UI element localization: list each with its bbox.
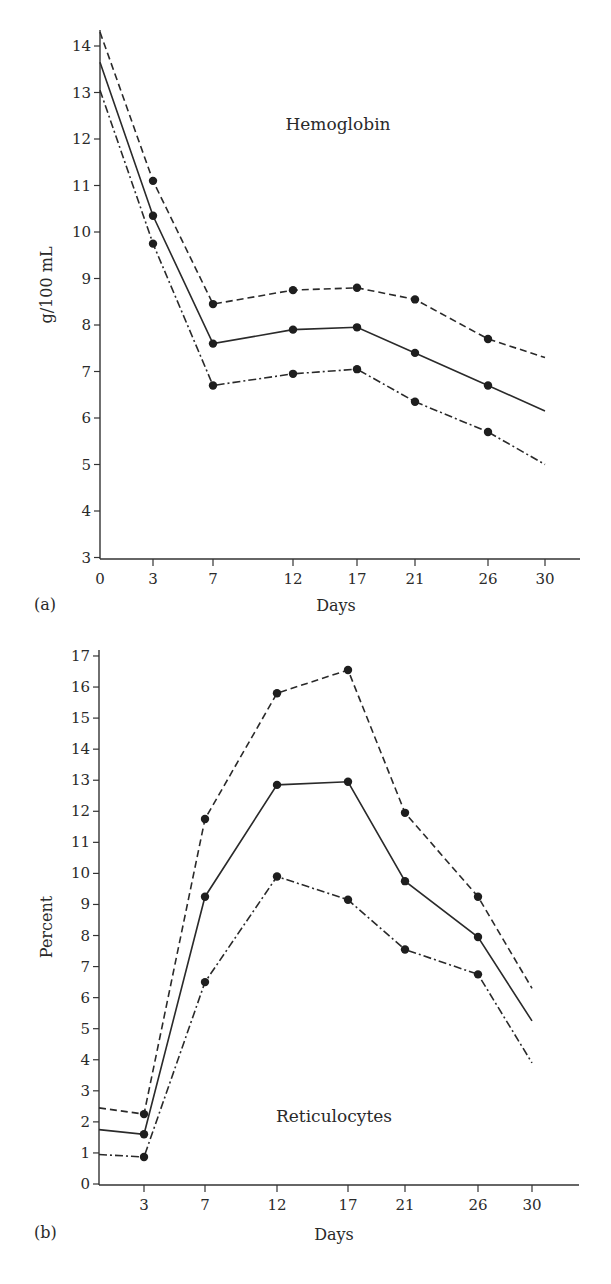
y-tick-label: 13 [71,771,90,789]
panel-label: (a) [34,595,56,614]
x-tick-label: 21 [405,570,424,588]
x-tick-label: 12 [283,570,302,588]
x-tick-label: 17 [338,1196,357,1214]
data-point-marker [411,349,419,357]
series-dashed-line [99,670,532,1114]
data-point-marker [149,239,157,247]
data-point-marker [353,323,361,331]
y-tick-label: 10 [72,223,91,241]
series-dashed-line [100,32,545,358]
data-point-marker [140,1130,148,1138]
x-tick-label: 26 [478,570,497,588]
chart-annotation: Hemoglobin [285,114,390,134]
data-point-marker [289,325,297,333]
x-tick-label: 30 [535,570,554,588]
y-tick-label: 12 [72,130,91,148]
data-point-marker [273,689,281,697]
y-tick-label: 3 [80,1082,90,1100]
y-tick-label: 10 [71,864,90,882]
y-tick-label: 9 [80,895,90,913]
y-tick-label: 17 [71,647,90,665]
x-tick-label: 21 [395,1196,414,1214]
reticulocytes-chart: 01234567891011121314151617371217212630Da… [34,647,579,1244]
x-tick-label: 7 [208,570,218,588]
x-tick-label: 7 [200,1196,210,1214]
data-point-marker [273,872,281,880]
data-point-marker [201,978,209,986]
y-tick-label: 11 [71,833,90,851]
panel-label: (b) [34,1223,57,1242]
data-point-marker [140,1110,148,1118]
data-point-marker [201,892,209,900]
x-tick-label: 0 [95,570,105,588]
x-axis-title: Days [314,1225,354,1244]
series-dashdot-line [100,90,545,464]
data-point-marker [474,933,482,941]
y-tick-label: 14 [71,740,90,758]
data-point-marker [344,666,352,674]
data-point-marker [344,778,352,786]
x-tick-label: 3 [139,1196,149,1214]
y-axis-title: Percent [37,895,56,958]
data-point-marker [209,300,217,308]
y-tick-label: 8 [81,316,91,334]
data-point-marker [474,970,482,978]
data-point-marker [353,365,361,373]
y-tick-label: 2 [80,1113,90,1131]
y-tick-label: 9 [81,270,91,288]
data-point-marker [209,381,217,389]
hemoglobin-chart: 345678910111213140371217212630Daysg/100 … [34,30,580,615]
y-tick-label: 16 [71,678,90,696]
data-point-marker [353,284,361,292]
y-tick-label: 5 [81,456,91,474]
data-point-marker [484,381,492,389]
y-tick-label: 4 [81,502,91,520]
y-tick-label: 8 [80,927,90,945]
data-point-marker [289,286,297,294]
data-point-marker [411,295,419,303]
data-point-marker [401,945,409,953]
data-point-marker [401,809,409,817]
x-tick-label: 12 [267,1196,286,1214]
data-point-marker [149,212,157,220]
data-point-marker [344,896,352,904]
x-tick-label: 30 [522,1196,541,1214]
x-tick-label: 26 [468,1196,487,1214]
y-tick-label: 6 [81,409,91,427]
y-tick-label: 6 [80,989,90,1007]
data-point-marker [474,892,482,900]
chart-annotation: Reticulocytes [276,1106,392,1126]
y-tick-label: 13 [72,84,91,102]
y-tick-label: 11 [72,177,91,195]
data-point-marker [289,370,297,378]
data-point-marker [484,335,492,343]
y-tick-label: 12 [71,802,90,820]
y-tick-label: 15 [71,709,90,727]
data-point-marker [484,428,492,436]
y-tick-label: 4 [80,1051,90,1069]
y-tick-label: 1 [80,1144,90,1162]
y-tick-label: 3 [81,549,91,567]
x-tick-label: 17 [347,570,366,588]
x-tick-label: 3 [148,570,158,588]
data-point-marker [201,815,209,823]
data-point-marker [209,339,217,347]
y-tick-label: 7 [81,363,91,381]
data-point-marker [273,781,281,789]
y-tick-label: 7 [80,958,90,976]
data-point-marker [140,1153,148,1161]
y-tick-label: 14 [72,37,91,55]
data-point-marker [149,177,157,185]
figure-canvas: 345678910111213140371217212630Daysg/100 … [0,0,611,1284]
data-point-marker [401,877,409,885]
y-tick-label: 5 [80,1020,90,1038]
series-solid-line [99,782,532,1135]
data-point-marker [411,398,419,406]
y-tick-label: 0 [80,1175,90,1193]
y-axis-title: g/100 mL [37,246,56,323]
x-axis-title: Days [316,596,356,615]
